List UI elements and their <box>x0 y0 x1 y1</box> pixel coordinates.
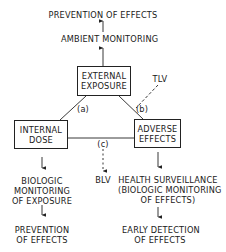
external-exposure-node: EXTERNAL EXPOSURE <box>77 66 131 96</box>
internal-line2: DOSE <box>29 135 53 145</box>
biologic-line1: BIOLOGIC <box>0 176 84 186</box>
ambient-monitoring-label: AMBIENT MONITORING <box>61 34 155 44</box>
adverse-effects-node: ADVERSE EFFECTS <box>134 119 181 148</box>
edge-label-a: (a) <box>75 104 91 114</box>
biologic-line2: MONITORING <box>0 186 84 196</box>
early-line1: EARLY DETECTION <box>122 225 198 235</box>
health-line1: HEALTH SURVEILLANCE <box>118 175 218 185</box>
edge-label-c: (c) <box>95 139 111 149</box>
edge-label-b: (b) <box>134 104 150 114</box>
early-detection-label: EARLY DETECTION OF EFFECTS <box>122 225 198 245</box>
adverse-line2: EFFECTS <box>139 134 176 144</box>
health-line3: OF EFFECTS) <box>118 195 218 205</box>
prevention-of-effects-top: PREVENTION OF EFFECTS <box>46 10 160 20</box>
adverse-line1: ADVERSE <box>138 124 178 134</box>
external-line2: EXPOSURE <box>81 81 127 91</box>
external-line1: EXTERNAL <box>82 71 126 81</box>
internal-line1: INTERNAL <box>20 125 62 135</box>
tlv-label: TLV <box>150 74 170 84</box>
internal-dose-node: INTERNAL DOSE <box>14 120 68 149</box>
biologic-monitoring-label: BIOLOGIC MONITORING OF EXPOSURE <box>0 176 84 206</box>
early-line2: OF EFFECTS <box>122 235 198 245</box>
blv-label: BLV <box>92 175 114 185</box>
health-line2: (BIOLOGIC MONITORING <box>118 185 218 195</box>
biologic-line3: OF EXPOSURE <box>0 196 84 206</box>
health-surveillance-label: HEALTH SURVEILLANCE (BIOLOGIC MONITORING… <box>118 175 218 205</box>
prevention-left-line2: OF EFFECTS <box>4 235 80 245</box>
prevention-left-line1: PREVENTION <box>4 225 80 235</box>
prevention-of-effects-left: PREVENTION OF EFFECTS <box>4 225 80 245</box>
